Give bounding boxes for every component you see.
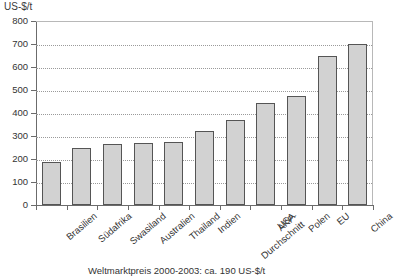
chart-caption: Weltmarktpreis 2000-2003: ca. 190 US-$/t xyxy=(88,265,265,276)
x-axis-category-label: Polen xyxy=(307,211,332,235)
x-axis-category-label: Brasilien xyxy=(65,211,100,242)
x-axis-category-label: Indien xyxy=(216,211,243,236)
x-axis-category-label: EU xyxy=(335,211,352,228)
x-axis-category-label: China xyxy=(368,211,394,235)
